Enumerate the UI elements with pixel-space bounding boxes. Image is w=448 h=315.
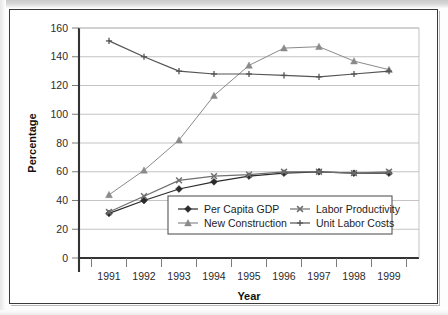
- data-point-marker: [176, 186, 183, 193]
- y-tick-label: 40: [56, 194, 68, 206]
- legend-label: Per Capita GDP: [204, 203, 279, 215]
- x-tick-label: 1994: [202, 270, 226, 282]
- x-tick-label: 1995: [237, 270, 261, 282]
- x-tick-label: 1996: [272, 270, 296, 282]
- y-tick-label: 160: [50, 22, 68, 34]
- data-point-marker: [106, 191, 113, 197]
- data-point-marker: [351, 71, 357, 77]
- y-axis-title: Percentage: [26, 113, 38, 172]
- line-chart: 0204060801001201401601991199219931994199…: [0, 0, 448, 315]
- y-tick-label: 0: [62, 252, 68, 264]
- data-point-marker: [316, 74, 322, 80]
- y-tick-label: 140: [50, 50, 68, 62]
- data-point-marker: [211, 71, 217, 77]
- x-tick-label: 1999: [377, 270, 401, 282]
- x-axis-title: Year: [237, 290, 261, 302]
- chart-figure: 0204060801001201401601991199219931994199…: [0, 0, 448, 315]
- y-tick-label: 60: [56, 165, 68, 177]
- data-point-marker: [246, 62, 253, 68]
- legend-label: Unit Labor Costs: [316, 217, 394, 229]
- x-tick-label: 1992: [132, 270, 156, 282]
- data-point-marker: [141, 54, 147, 60]
- legend-label: New Construction: [204, 217, 287, 229]
- y-tick-label: 100: [50, 108, 68, 120]
- y-tick-label: 80: [56, 137, 68, 149]
- y-tick-label: 20: [56, 223, 68, 235]
- data-point-marker: [281, 72, 287, 78]
- x-tick-label: 1997: [307, 270, 331, 282]
- x-tick-label: 1993: [167, 270, 191, 282]
- data-point-marker: [351, 58, 358, 64]
- x-tick-label: 1998: [342, 270, 366, 282]
- x-tick-label: 1991: [97, 270, 121, 282]
- legend-label: Labor Productivity: [316, 203, 401, 215]
- y-tick-label: 120: [50, 79, 68, 91]
- data-point-marker: [176, 68, 182, 74]
- data-point-marker: [246, 71, 252, 77]
- data-point-marker: [106, 38, 112, 44]
